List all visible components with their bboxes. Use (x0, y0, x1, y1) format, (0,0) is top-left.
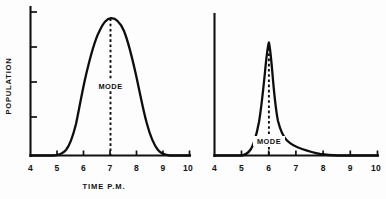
chart-svg-peaked: MODE 4 5 6 7 8 9 10 (196, 0, 386, 199)
mode-label-peaked: MODE (257, 137, 281, 146)
x-tick-label: 8 (321, 163, 326, 173)
x-tick-label: 9 (161, 163, 166, 173)
x-tick-label: 5 (55, 163, 60, 173)
x-tick-label: 6 (266, 163, 271, 173)
x-tick-label: 10 (371, 163, 381, 173)
x-tick-label: 7 (108, 163, 113, 173)
y-axis-title: POPULATION (4, 57, 13, 114)
x-tick-labels-peaked: 4 5 6 7 8 9 10 (212, 163, 381, 173)
x-tick-label: 4 (28, 163, 33, 173)
x-tick-label: 7 (293, 163, 298, 173)
figure-container: MODE 4 5 6 7 8 9 10 TIME P.M. POPULATION (0, 0, 386, 199)
mode-label-broad: MODE (98, 82, 122, 91)
distribution-curve-peaked (215, 43, 379, 156)
y-axis-group-broad (31, 7, 38, 156)
x-axis-title: TIME P.M. (83, 182, 126, 191)
x-tick-label: 9 (348, 163, 353, 173)
x-tick-label: 4 (212, 163, 217, 173)
x-tick-label: 8 (134, 163, 139, 173)
chart-panel-broad: MODE 4 5 6 7 8 9 10 TIME P.M. POPULATION (0, 0, 196, 199)
x-tick-label: 6 (81, 163, 86, 173)
chart-panel-peaked: MODE 4 5 6 7 8 9 10 (196, 0, 386, 199)
x-tick-labels-broad: 4 5 6 7 8 9 10 (28, 163, 193, 173)
x-tick-label: 10 (183, 163, 193, 173)
chart-svg-broad: MODE 4 5 6 7 8 9 10 TIME P.M. POPULATION (0, 0, 196, 199)
x-tick-label: 5 (239, 163, 244, 173)
